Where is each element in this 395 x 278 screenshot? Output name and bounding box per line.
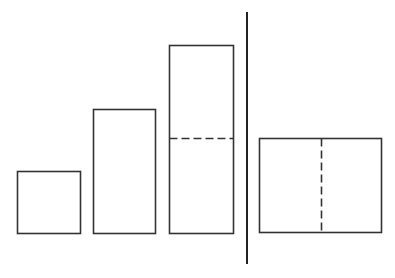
wide-rect <box>260 139 382 233</box>
diagram-canvas <box>0 0 395 278</box>
medium-rect <box>94 110 156 234</box>
small-square <box>18 172 81 234</box>
shapes-group <box>18 12 382 264</box>
tall-rect <box>170 46 234 234</box>
